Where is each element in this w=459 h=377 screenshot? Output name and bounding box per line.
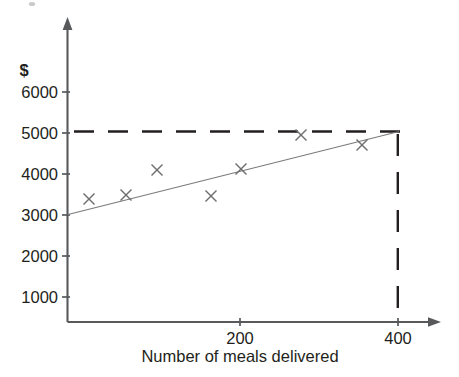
scatter-chart: 6000 5000 4000 3000 2000 1000 $ 200 400 … — [0, 0, 459, 377]
y-tick-label-1000: 1000 — [21, 288, 58, 306]
x-tick-label-400: 400 — [384, 329, 412, 347]
scan-artifacts — [29, 2, 35, 6]
x-axis-tick-labels: 200 400 — [226, 329, 412, 347]
x-tick-label-200: 200 — [226, 329, 254, 347]
data-point-marker — [296, 130, 307, 141]
data-point-marker — [84, 194, 95, 205]
chart-container: 6000 5000 4000 3000 2000 1000 $ 200 400 … — [0, 0, 459, 377]
y-axis — [63, 17, 73, 322]
line-of-best-fit — [68, 132, 399, 215]
data-point-marker — [206, 191, 217, 202]
y-tick-label-2000: 2000 — [21, 247, 58, 265]
x-axis-title: Number of meals delivered — [141, 347, 338, 365]
y-axis-tick-labels: 6000 5000 4000 3000 2000 1000 — [21, 83, 58, 306]
y-tick-label-5000: 5000 — [21, 124, 58, 142]
x-axis — [68, 317, 442, 327]
y-tick-label-6000: 6000 — [21, 83, 58, 101]
y-axis-ticks — [62, 92, 70, 297]
data-point-marker — [152, 165, 163, 176]
data-point-marker — [236, 164, 247, 175]
data-point-marker — [121, 190, 132, 201]
y-axis-unit-label: $ — [19, 61, 28, 79]
y-tick-label-4000: 4000 — [21, 165, 58, 183]
y-tick-label-3000: 3000 — [21, 206, 58, 224]
data-points — [84, 130, 368, 205]
